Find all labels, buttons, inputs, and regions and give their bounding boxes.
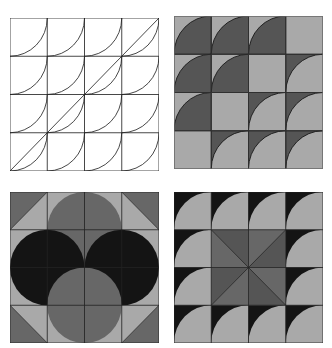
circle-pinwheel-grid	[10, 192, 159, 343]
panel-top-left-line-art	[10, 18, 159, 171]
triangle-pinwheel-grid	[174, 192, 323, 343]
line-art-grid	[10, 18, 159, 171]
two-tone-grid	[174, 16, 323, 169]
panel-top-right-two-tone	[174, 16, 323, 169]
panel-bottom-right-pinwheel	[174, 192, 323, 343]
panel-bottom-left-circles	[10, 192, 159, 343]
